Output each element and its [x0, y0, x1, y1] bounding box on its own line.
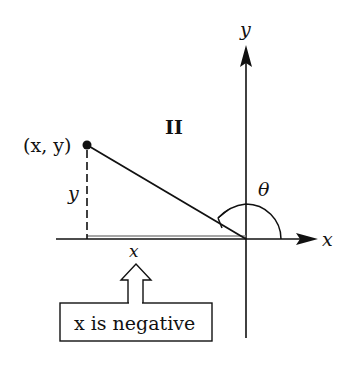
y-axis-label: y: [239, 18, 251, 40]
point-label: (x, y): [23, 134, 71, 156]
callout-arrow-icon: [121, 264, 151, 304]
terminal-side: [87, 145, 246, 239]
callout-text: x is negative: [74, 312, 195, 334]
angle-arc: [218, 204, 281, 239]
diagram-canvas: x y II (x, y) y x θ x is negative: [0, 0, 355, 370]
horizontal-leg-label: x: [129, 241, 139, 261]
quadrant-label: II: [165, 116, 183, 138]
y-axis: [240, 45, 252, 338]
point-marker: [83, 141, 92, 150]
vertical-leg-label: y: [67, 182, 79, 204]
x-axis: [56, 233, 318, 245]
x-axis-label: x: [322, 228, 333, 250]
angle-label: θ: [258, 178, 270, 200]
